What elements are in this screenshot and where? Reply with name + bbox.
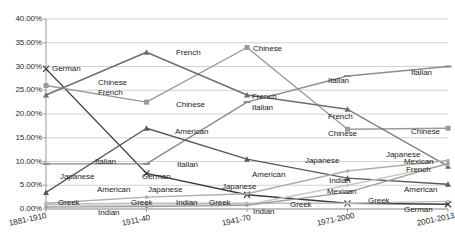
series-label-japanese: Japanese xyxy=(222,182,256,191)
series-label-indian: Indian xyxy=(98,208,120,217)
series-label-french: French xyxy=(98,88,123,97)
data-point-marker xyxy=(445,66,452,68)
series-label-german: German xyxy=(404,205,433,214)
series-label-french: French xyxy=(176,48,201,57)
data-point-marker xyxy=(43,189,49,195)
series-label-italian: Italian xyxy=(95,157,116,166)
series-label-french: French xyxy=(328,112,353,121)
series-label-japanese: Japanese xyxy=(305,156,339,165)
data-point-marker xyxy=(44,205,48,209)
data-point-marker xyxy=(144,125,150,131)
data-point-marker xyxy=(446,126,451,131)
series-label-italian: Italian xyxy=(328,76,349,85)
series-label-american: American xyxy=(97,185,130,194)
data-point-marker xyxy=(144,100,149,105)
series-label-american: American xyxy=(175,127,208,136)
y-axis-tick-label: 20.00% xyxy=(0,109,42,118)
series-label-greek: Greek xyxy=(368,196,390,205)
series-label-italian: Italian xyxy=(411,68,432,77)
data-point-marker xyxy=(346,169,350,173)
series-label-chinese: Chinese xyxy=(253,44,282,53)
series-label-french: French xyxy=(406,165,431,174)
series-label-american: American xyxy=(252,170,285,179)
data-point-marker xyxy=(244,101,251,103)
series-label-italian: Italian xyxy=(177,160,198,169)
series-label-chinese: Chinese xyxy=(176,100,205,109)
series-label-indian: Indian xyxy=(176,198,198,207)
y-axis-tick-label: 15.00% xyxy=(0,133,42,142)
series-label-greek: Greek xyxy=(290,200,312,209)
y-axis-tick-label: 40.00% xyxy=(0,14,42,23)
series-label-american: American xyxy=(404,185,437,194)
y-axis-tick-label: 35.00% xyxy=(0,38,42,47)
data-point-marker xyxy=(43,163,50,165)
series-label-chinese: Chinese xyxy=(411,127,440,136)
y-axis-tick-label: 0.00% xyxy=(0,204,42,213)
series-label-german: German xyxy=(52,64,81,73)
data-point-marker xyxy=(446,200,450,204)
series-label-mexican: Mexican xyxy=(327,187,356,196)
series-label-greek: Greek xyxy=(209,198,231,207)
data-point-marker xyxy=(44,83,49,88)
series-label-japanese: Japanese xyxy=(60,172,94,181)
y-axis-tick-label: 10.00% xyxy=(0,157,42,166)
y-axis-tick-label: 5.00% xyxy=(0,180,42,189)
series-label-indian: Indian xyxy=(329,176,351,185)
data-point-marker xyxy=(346,202,350,206)
series-label-greek: Greek xyxy=(131,198,153,207)
data-point-marker xyxy=(245,45,250,50)
y-axis-tick-label: 30.00% xyxy=(0,62,42,71)
y-axis-tick-label: 25.00% xyxy=(0,85,42,94)
series-label-french: French xyxy=(252,92,277,101)
data-point-marker xyxy=(143,163,150,165)
series-label-japanese: Japanese xyxy=(148,185,182,194)
series-label-indian: Indian xyxy=(253,207,275,216)
series-label-german: German xyxy=(142,172,171,181)
data-point-marker xyxy=(446,162,450,166)
data-point-marker xyxy=(245,192,249,196)
series-label-italian: Italian xyxy=(252,103,273,112)
data-point-marker xyxy=(245,203,249,207)
data-point-marker xyxy=(144,49,150,55)
series-label-greek: Greek xyxy=(58,198,80,207)
series-label-chinese: Chinese xyxy=(328,129,357,138)
series-label-chinese: Chinese xyxy=(98,78,127,87)
